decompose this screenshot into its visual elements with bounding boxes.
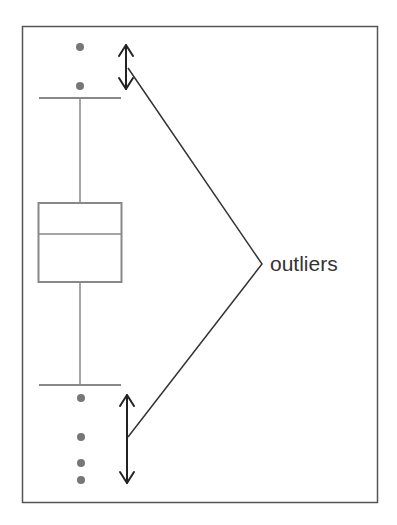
outlier-leader-lines — [128, 68, 262, 437]
interquartile-box — [39, 203, 122, 282]
outlier-point — [77, 459, 85, 467]
top-double-arrow-icon — [119, 45, 133, 89]
outliers-label: outliers — [270, 252, 338, 276]
outlier-point — [77, 394, 85, 402]
outlier-point — [76, 82, 84, 90]
outlier-point — [76, 43, 84, 51]
outlier-point — [77, 433, 85, 441]
bottom-double-arrow-icon — [120, 395, 134, 483]
outlier-point — [77, 476, 85, 484]
